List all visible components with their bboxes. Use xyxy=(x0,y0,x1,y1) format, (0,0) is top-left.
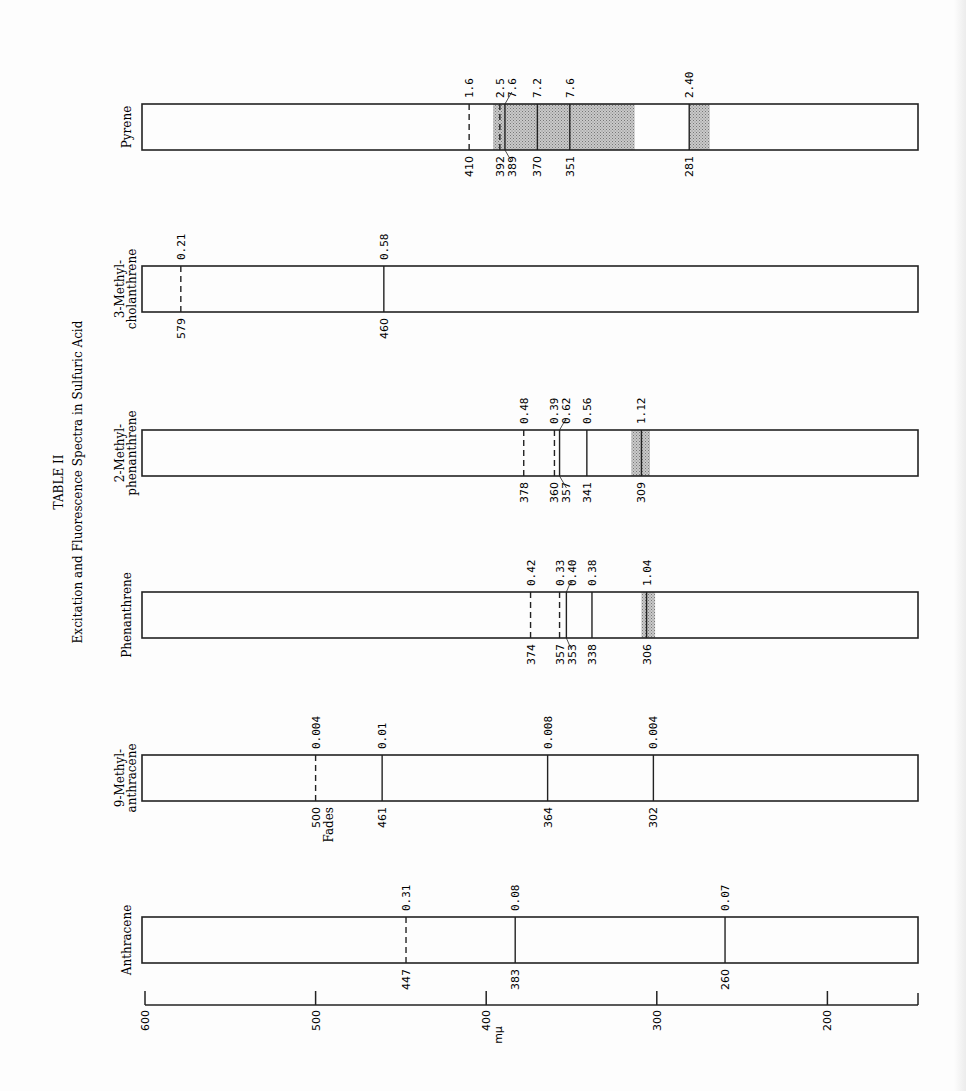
wavelength-label: 447 xyxy=(400,969,413,990)
intensity-label: 0.58 xyxy=(378,234,391,261)
wavelength-label: 370 xyxy=(531,156,544,177)
wavelength-label: 374 xyxy=(525,644,538,665)
axis-tick-label: 500 xyxy=(310,1010,323,1031)
intensity-label: 1.6 xyxy=(463,78,476,98)
wavelength-label: 383 xyxy=(509,969,522,990)
intensity-label: 0.42 xyxy=(525,560,538,587)
intensity-label: 7.2 xyxy=(531,78,544,98)
intensity-label: 2.40 xyxy=(683,72,696,99)
wavelength-label: 378 xyxy=(518,482,531,503)
shaded-band xyxy=(689,104,709,150)
intensity-label: 0.62 xyxy=(560,398,573,425)
fades-note: Fades xyxy=(322,807,336,843)
compound-name-line2: anthracene xyxy=(125,744,139,813)
axis-tick-label: 600 xyxy=(139,1010,152,1031)
wavelength-label: 364 xyxy=(542,807,555,828)
compound-name: Anthracene xyxy=(120,905,134,977)
compound-name-line2: phenanthrene xyxy=(125,410,139,495)
shaded-band xyxy=(631,430,650,476)
intensity-label: 7.6 xyxy=(506,78,519,98)
intensity-label: 0.004 xyxy=(310,716,323,749)
spectrum-box xyxy=(142,755,918,801)
spectrum-row-2-methylphenanthrene: 2-Methyl-phenanthrene0.483780.393600.623… xyxy=(113,398,918,504)
compound-name: Phenanthrene xyxy=(120,572,134,658)
wavelength-label: 460 xyxy=(378,318,391,339)
axis-tick-label: 200 xyxy=(821,1010,834,1031)
table-title: TABLE IIExcitation and Fluorescence Spec… xyxy=(52,320,85,643)
intensity-label: 1.04 xyxy=(641,559,654,586)
intensity-label: 0.38 xyxy=(586,560,599,587)
intensity-label: 0.31 xyxy=(400,885,413,912)
table-number: TABLE II xyxy=(52,454,66,509)
wavelength-axis: 600500400300200mμ xyxy=(139,991,918,1044)
wavelength-label: 410 xyxy=(463,156,476,177)
spectrum-row-anthracene: Anthracene0.314470.083830.07260 xyxy=(120,885,918,991)
intensity-label: 7.6 xyxy=(564,78,577,98)
spectra-chart: TABLE IIExcitation and Fluorescence Spec… xyxy=(0,0,966,1091)
wavelength-label: 306 xyxy=(641,644,654,665)
spectrum-box xyxy=(142,430,918,476)
compound-name: Pyrene xyxy=(120,106,134,149)
wavelength-label: 260 xyxy=(719,969,732,990)
intensity-label: 0.004 xyxy=(647,716,660,749)
intensity-label: 0.21 xyxy=(175,234,188,261)
intensity-label: 0.008 xyxy=(542,716,555,749)
spectrum-row-3-methylcholanthrene: 3-Methyl-cholanthrene0.215790.58460 xyxy=(113,234,918,340)
wavelength-label: 353 xyxy=(566,644,579,665)
wavelength-label: 302 xyxy=(647,807,660,828)
wavelength-label: 281 xyxy=(683,156,696,177)
wavelength-label: 461 xyxy=(376,807,389,828)
compound-name-line2: cholanthrene xyxy=(125,249,139,330)
wavelength-label: 338 xyxy=(586,644,599,665)
wavelength-label: 309 xyxy=(635,482,648,503)
intensity-label: 0.40 xyxy=(566,560,579,587)
axis-tick-label: 300 xyxy=(651,1010,664,1031)
spectrum-row-pyrene: Pyrene1.64102.53927.63897.23707.63512.40… xyxy=(120,72,918,178)
wavelength-label: 579 xyxy=(175,318,188,339)
spectrum-row-9-methylanthracene: 9-Methyl-anthracene0.004500Fades0.014610… xyxy=(113,716,918,843)
intensity-label: 0.01 xyxy=(376,723,389,750)
intensity-label: 1.12 xyxy=(635,398,648,425)
intensity-label: 0.07 xyxy=(719,885,732,912)
spectrum-box xyxy=(142,917,918,963)
wavelength-label: 351 xyxy=(564,156,577,177)
intensity-label: 0.48 xyxy=(518,398,531,425)
spectrum-box xyxy=(142,266,918,312)
spectrum-row-phenanthrene: Phenanthrene0.423740.333570.403530.38338… xyxy=(120,559,918,665)
wavelength-label: 357 xyxy=(560,482,573,503)
wavelength-label: 389 xyxy=(506,156,519,177)
intensity-label: 0.08 xyxy=(509,885,522,912)
intensity-label: 0.56 xyxy=(581,398,594,425)
shaded-band xyxy=(641,592,655,638)
table-caption: Excitation and Fluorescence Spectra in S… xyxy=(71,320,85,643)
wavelength-label: 341 xyxy=(581,482,594,503)
axis-unit-label: mμ xyxy=(492,1026,505,1044)
shaded-band xyxy=(493,104,635,150)
